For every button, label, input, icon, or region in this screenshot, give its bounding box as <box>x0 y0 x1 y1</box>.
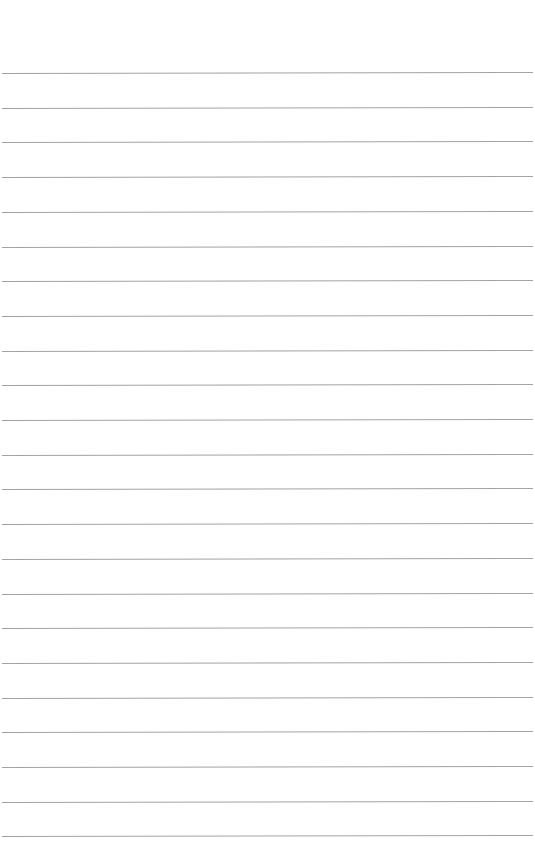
lined-paper-sheet <box>0 0 535 867</box>
ruled-line <box>2 766 533 768</box>
ruled-line <box>2 315 533 317</box>
ruled-line <box>2 211 533 213</box>
ruled-line <box>2 419 533 421</box>
ruled-line <box>2 731 533 733</box>
ruled-line <box>2 523 533 525</box>
ruled-line <box>2 454 533 456</box>
ruled-line <box>2 662 533 664</box>
ruled-line <box>2 801 533 803</box>
ruled-line <box>2 141 533 143</box>
ruled-line <box>2 558 533 560</box>
ruled-line <box>2 627 533 629</box>
ruled-line <box>2 488 533 490</box>
ruled-line <box>2 350 533 352</box>
ruled-line <box>2 280 533 282</box>
ruled-line <box>2 72 533 74</box>
ruled-line <box>2 835 533 837</box>
ruled-line <box>2 593 533 595</box>
ruled-line <box>2 384 533 386</box>
ruled-line <box>2 176 533 178</box>
ruled-line <box>2 697 533 699</box>
ruled-line <box>2 107 533 109</box>
ruled-line <box>2 246 533 248</box>
